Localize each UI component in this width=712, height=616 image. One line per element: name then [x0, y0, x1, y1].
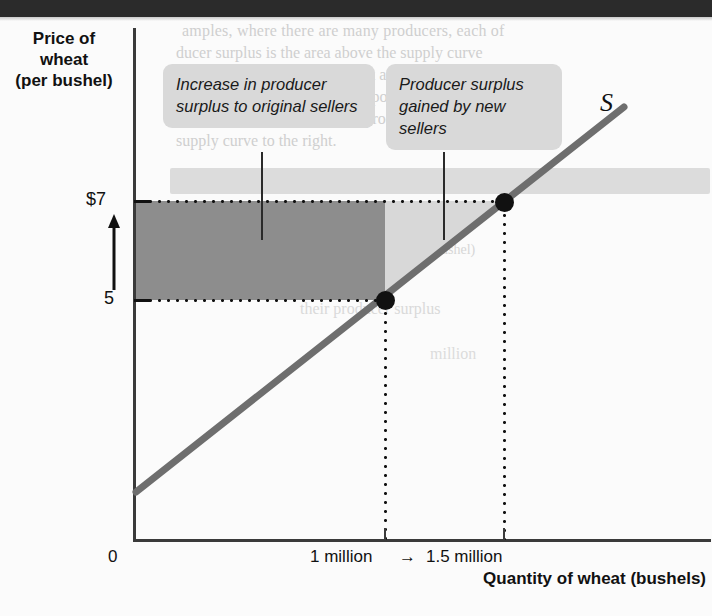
page-header-shadow [0, 17, 712, 21]
y-tickmark-7 [134, 200, 150, 203]
page-header-bar [0, 0, 712, 17]
supply-curve-label: S [600, 88, 613, 118]
callout-leader-line-2 [443, 152, 445, 240]
price-increase-arrow-icon [107, 214, 121, 290]
x-tick-arrow-icon: → [399, 547, 416, 567]
y-axis-title: Price of wheat (per bushel) [0, 28, 128, 91]
bleedthrough-text: million [430, 345, 476, 363]
x-axis-title: Quantity of wheat (bushels) [0, 569, 706, 589]
bleedthrough-text: supply curve to the right. [176, 132, 336, 150]
reference-line-price-5 [137, 299, 387, 302]
reference-line-price-7 [137, 200, 507, 203]
y-tick-label-5: 5 [104, 288, 114, 309]
x-axis-line [133, 539, 711, 542]
y-axis-title-line-1: Price of [0, 28, 128, 49]
y-axis-line [133, 28, 136, 542]
x-tick-label-1m: 1 million [310, 547, 372, 567]
x-tickmark-1m [384, 528, 386, 541]
bleedthrough-text: their producer surplus [300, 300, 440, 318]
y-axis-title-line-2: wheat [0, 49, 128, 70]
origin-label: 0 [108, 547, 117, 567]
reference-line-quantity-1m [384, 300, 387, 540]
x-tickmark-15m [503, 528, 505, 541]
bleedthrough-bar [170, 168, 710, 194]
bleedthrough-text: amples, where there are many producers, … [182, 22, 505, 40]
y-tickmark-5 [134, 299, 150, 302]
y-tick-label-7: $7 [86, 189, 106, 210]
y-axis-title-line-3: (per bushel) [0, 70, 128, 91]
region-gained-by-new-sellers [385, 201, 505, 301]
reference-line-quantity-15m [503, 202, 506, 540]
data-point-original-equilibrium [376, 291, 395, 310]
data-point-new-equilibrium [495, 193, 514, 212]
x-tick-label-15m: 1.5 million [426, 547, 503, 567]
callout-increase-to-original-sellers: Increase in producer surplus to original… [163, 64, 375, 128]
callout-gained-by-new-sellers: Producer surplus gained by new sellers [386, 64, 562, 150]
figure-root: amples, where there are many producers, … [0, 0, 712, 616]
bleedthrough-text: ducer surplus is the area above the supp… [176, 44, 483, 62]
callout-leader-line-1 [261, 152, 263, 240]
